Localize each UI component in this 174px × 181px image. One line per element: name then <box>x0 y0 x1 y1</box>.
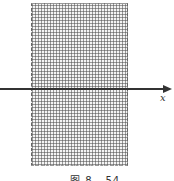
figure-caption: 图 8 - 54 <box>70 172 120 181</box>
x-axis-label: x <box>160 92 166 103</box>
shaded-strip-region <box>31 3 128 166</box>
x-axis-line <box>0 88 166 90</box>
